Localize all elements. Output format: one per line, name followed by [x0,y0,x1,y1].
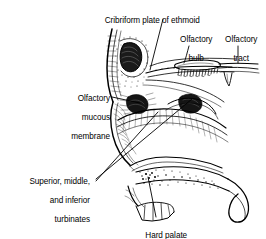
label-mucous-membrane-line2: mucous [82,113,110,122]
label-olfactory-bulb: Olfactory bulb [168,25,220,63]
label-cribriform-plate: Cribriform plate of ethmoid [86,6,214,25]
label-hard-palate: Hard palate [134,221,194,239]
label-turbinates-line3: turbinates [55,215,90,224]
label-olfactory-tract: Olfactory tract [214,25,264,63]
label-turbinates-line1: Superior, middle, [29,177,90,186]
label-cribriform-plate-line1: Cribriform plate of ethmoid [105,16,200,25]
label-olfactory-tract-line1: Olfactory [225,35,257,44]
label-mucous-membrane-line1: Olfactory [78,94,110,103]
label-mucous-membrane-line3: membrane [71,132,110,141]
label-olfactory-bulb-line1: Olfactory [180,35,212,44]
label-olfactory-mucous-membrane: Olfactory mucous membrane [34,84,110,142]
label-olfactory-tract-line2: tract [233,54,249,63]
label-hard-palate-line1: Hard palate [145,231,187,239]
label-turbinates-line2: and inferior [50,196,90,205]
label-turbinates: Superior, middle, and inferior turbinate… [4,167,90,225]
label-olfactory-bulb-line2: bulb [189,54,204,63]
